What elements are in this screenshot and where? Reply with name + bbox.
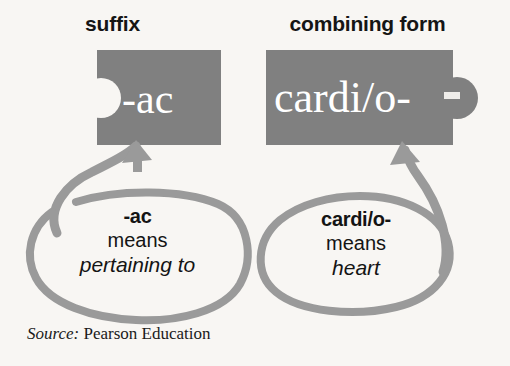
suffix-piece-label: -ac [122,78,173,120]
heading-combining-form: combining form [255,12,480,36]
combining-form-piece-label: cardi/o- [274,76,411,120]
bubble-combining-form-means: means [262,231,450,255]
diagram-graphics [0,0,510,366]
source-label: Source: [27,324,79,343]
bubble-suffix-means: means [30,228,245,252]
bubble-combining-form-content: cardi/o- means heart [262,208,450,280]
word-parts-diagram: suffix combining form -ac cardi/o- -ac m… [0,0,510,366]
heading-suffix: suffix [0,12,225,36]
bubble-combining-form-term: cardi/o- [262,208,450,231]
bubble-suffix-definition: pertaining to [30,252,245,277]
bubble-suffix-term: -ac [30,205,245,228]
bubble-suffix-content: -ac means pertaining to [30,205,245,277]
bubble-combining-form-definition: heart [262,255,450,280]
source-value: Pearson Education [79,324,210,343]
source-credit: Source: Pearson Education [27,324,211,344]
